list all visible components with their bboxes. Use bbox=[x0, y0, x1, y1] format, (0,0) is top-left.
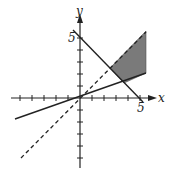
y-axis-label: y bbox=[75, 4, 83, 18]
x-tick-label-5: 5 bbox=[137, 101, 145, 115]
x-axis-label: x bbox=[158, 91, 165, 105]
y-tick-label-5: 5 bbox=[68, 31, 76, 45]
x-axis-arrow-icon bbox=[148, 95, 157, 101]
coordinate-graph: y x 5 5 bbox=[0, 0, 172, 180]
